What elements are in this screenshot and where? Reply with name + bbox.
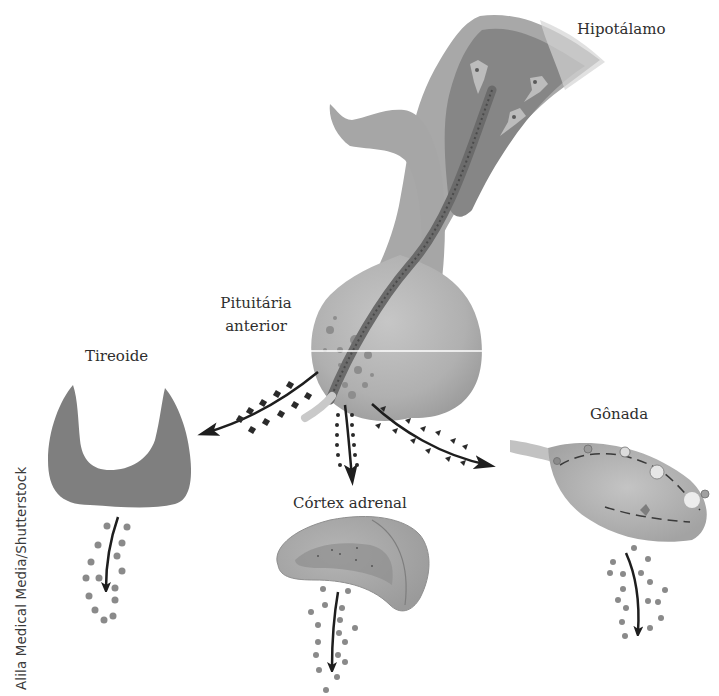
- adrenal-cortex-shape: [277, 516, 429, 610]
- gonad-shape: [510, 440, 709, 542]
- square-hormones: [236, 381, 312, 434]
- label-anterior-pituitary-line2: anterior: [206, 317, 306, 336]
- label-gonad: Gônada: [590, 405, 648, 424]
- label-thyroid: Tireoide: [85, 347, 148, 366]
- image-credit: Alila Medical Media/Shutterstock: [13, 467, 29, 690]
- label-hypothalamus: Hipotálamo: [577, 20, 665, 39]
- label-anterior-pituitary: Pituitária anterior: [206, 294, 306, 336]
- thyroid-shape: [48, 385, 191, 508]
- arrow-to-thyroid: [205, 372, 318, 434]
- endocrine-diagram: Hipotálamo Pituitária anterior Tireoide …: [0, 0, 719, 696]
- label-anterior-pituitary-line1: Pituitária: [206, 294, 306, 313]
- label-adrenal-cortex: Córtex adrenal: [293, 494, 407, 513]
- gonad-output: [607, 545, 668, 639]
- thyroid-output: [83, 517, 131, 624]
- adrenal-output: [308, 586, 358, 693]
